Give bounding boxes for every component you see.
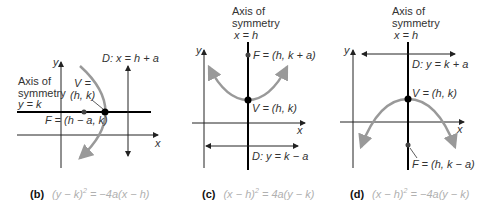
focus-point <box>406 143 411 148</box>
panel-c: y x Axis of symmetry x = h F = (h, k + a… <box>160 0 325 214</box>
caption-letter: (b) <box>30 188 44 200</box>
x-axis-label: x <box>456 123 463 135</box>
symmetry-label-1: Axis of <box>392 5 426 17</box>
equation: (y − k)2 = −4a(x − h) <box>52 188 149 200</box>
caption-b: (b)(y − k)2 = −4a(x − h) <box>30 187 150 200</box>
y-axis-label: y <box>195 44 203 56</box>
caption-c: (c)(x − h)2 = 4a(y − k) <box>202 187 314 200</box>
panel-d: y x Axis of symmetry x = h D: y = k + a … <box>317 0 487 214</box>
caption-d: (d)(x − h)2 = −4a(y − k) <box>350 187 470 200</box>
symmetry-label-2: symmetry <box>392 17 440 29</box>
y-axis-label: y <box>343 44 351 56</box>
directrix-label: D: x = h + a <box>102 52 159 64</box>
focus-label: F = (h, k − a) <box>412 158 475 170</box>
panel-b: y x Axis of symmetry y = k V = (h, k) F … <box>0 0 165 214</box>
parabola-curve <box>361 99 408 147</box>
vertex-label-2: (h, k) <box>70 89 95 101</box>
caption-letter: (d) <box>350 188 364 200</box>
directrix-label: D: y = k + a <box>412 58 468 70</box>
vertex-point <box>245 97 252 104</box>
symmetry-label-2: symmetry <box>232 17 280 29</box>
parabola-curve <box>209 67 248 100</box>
symmetry-label-3: x = h <box>233 29 258 41</box>
x-axis-label: x <box>296 124 303 136</box>
equation: (x − h)2 = −4a(y − k) <box>372 188 469 200</box>
y-axis-label: y <box>52 56 60 68</box>
symmetry-label-1: Axis of <box>232 5 266 17</box>
vertex-label: V = (h, k) <box>412 87 457 99</box>
focus-point <box>246 53 251 58</box>
vertex-label: V = (h, k) <box>252 102 297 114</box>
directrix-label: D: y = k − a <box>252 150 308 162</box>
parabola-diagram-d: y x Axis of symmetry x = h D: y = k + a … <box>317 0 487 214</box>
focus-label: F = (h, k + a) <box>253 49 316 61</box>
equation: (x − h)2 = 4a(y − k) <box>223 188 314 200</box>
symmetry-label-3: y = k <box>17 98 42 110</box>
vertex-point <box>405 96 412 103</box>
focus-label: F = (h − a, k) <box>45 114 108 126</box>
parabola-diagram-b: y x Axis of symmetry y = k V = (h, k) F … <box>0 0 165 214</box>
vertex-label-1: V = <box>74 77 91 89</box>
symmetry-label-3: x = h <box>393 29 418 41</box>
parabola-diagram-c: y x Axis of symmetry x = h F = (h, k + a… <box>160 0 325 214</box>
symmetry-label-1: Axis of <box>18 75 52 87</box>
caption-letter: (c) <box>202 188 215 200</box>
